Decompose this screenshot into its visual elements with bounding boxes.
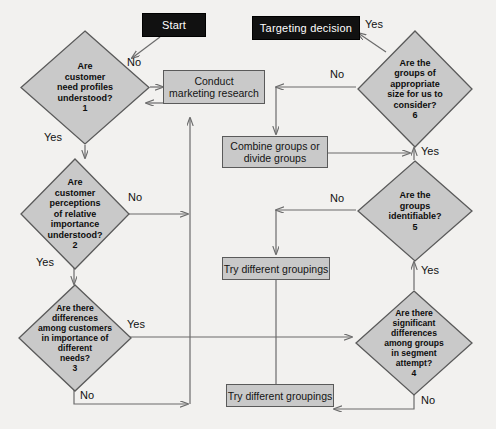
flowchart-canvas: Start Targeting decision Conduct marketi… bbox=[0, 0, 496, 429]
decision-need-profiles-understood[interactable]: Are customer need profiles understood? 1 bbox=[20, 30, 150, 145]
edge-d4-no bbox=[334, 395, 414, 409]
edge-label-d2-yes: Yes bbox=[36, 256, 54, 268]
edge-label-d4-yes: Yes bbox=[421, 264, 439, 276]
edge-label-d1-yes: Yes bbox=[44, 131, 62, 143]
process-research-line-2: marketing research bbox=[169, 87, 259, 99]
process-try-1-label: Try different groupings bbox=[224, 263, 328, 275]
edge-label-d3-no: No bbox=[80, 389, 94, 401]
process-combine-line-1: Combine groups or bbox=[230, 140, 319, 152]
edge-label-d4-no: No bbox=[421, 394, 435, 406]
decision-customer-perceptions-understood[interactable]: Are customer perceptions of relative imp… bbox=[20, 158, 130, 270]
decision-differences-among-customers[interactable]: Are there differences among customers in… bbox=[18, 284, 132, 392]
terminator-start-label: Start bbox=[162, 19, 186, 31]
terminator-targeting-decision-label: Targeting decision bbox=[260, 22, 352, 34]
process-try-2-label: Try different groupings bbox=[228, 390, 332, 402]
edge-label-d6-yes: Yes bbox=[365, 18, 383, 30]
terminator-targeting-decision[interactable]: Targeting decision bbox=[252, 16, 360, 40]
terminator-start[interactable]: Start bbox=[142, 13, 206, 37]
decision-significant-differences-among-groups[interactable]: Are there significant differences among … bbox=[355, 290, 473, 396]
edge-label-d5-yes: Yes bbox=[421, 145, 439, 157]
process-research-line-1: Conduct bbox=[169, 75, 259, 87]
decision-groups-appropriate-size[interactable]: Are the groups of appropriate size for u… bbox=[357, 30, 473, 148]
process-try-different-groupings-2[interactable]: Try different groupings bbox=[226, 384, 334, 407]
process-combine-line-2: divide groups bbox=[230, 152, 319, 164]
process-try-different-groupings-1[interactable]: Try different groupings bbox=[222, 257, 330, 280]
process-combine-or-divide-groups[interactable]: Combine groups or divide groups bbox=[222, 136, 328, 168]
edge-label-d6-no: No bbox=[330, 68, 344, 80]
edge-label-d2-no: No bbox=[128, 191, 142, 203]
edge-label-d3-yes: Yes bbox=[127, 318, 145, 330]
edge-label-d5-no: No bbox=[330, 192, 344, 204]
edge-label-d1-no: No bbox=[127, 56, 141, 68]
decision-groups-identifiable[interactable]: Are the groups identifiable? 5 bbox=[357, 160, 473, 262]
process-conduct-marketing-research[interactable]: Conduct marketing research bbox=[163, 70, 265, 104]
